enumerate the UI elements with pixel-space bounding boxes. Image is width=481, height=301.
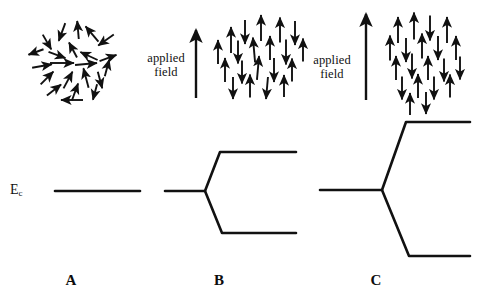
applied-field-label-c: applied field [306,54,358,81]
spin-arrow [98,35,114,46]
spin-arrow [257,56,259,80]
spin-cluster-a [28,21,116,100]
spin-arrow [32,64,52,67]
spin-arrow [100,55,117,61]
spin-arrow [98,72,102,88]
energy-level-line [320,122,470,190]
spin-arrow [69,42,77,57]
spin-arrow [77,21,79,39]
spin-arrow [105,60,109,76]
panel-letter-c: C [363,272,389,289]
spin-arrow [47,84,61,95]
spin-arrow [253,38,255,63]
spin-cluster-c [390,13,460,116]
energy-level-line [165,152,296,191]
spin-arrow [43,35,52,50]
spin-arrow [41,72,54,85]
spin-arrow [83,68,88,87]
diagram-canvas [0,0,481,301]
spin-arrow [59,23,66,41]
spin-arrow [266,77,268,99]
energy-level-label: Ec [10,182,23,198]
spin-arrow [64,72,73,89]
spin-arrow [75,63,97,65]
spin-arrow [86,26,99,41]
spin-arrow [93,84,97,99]
energy-level-lines [55,122,470,256]
energy-level-symbol: E [10,182,19,197]
panel-letter-b: B [206,272,232,289]
figure-root: Ec applied field applied field A B C [0,0,481,301]
energy-level-line [382,190,470,256]
spin-arrow [72,84,78,101]
spin-arrow [49,52,66,58]
panel-letter-a: A [58,272,84,289]
spin-cluster-b [218,15,303,99]
energy-level-subscript: c [19,188,23,198]
energy-level-line [205,191,296,233]
spin-arrow [28,49,43,54]
applied-field-label-b: applied field [140,52,192,79]
spin-arrow [80,52,97,60]
